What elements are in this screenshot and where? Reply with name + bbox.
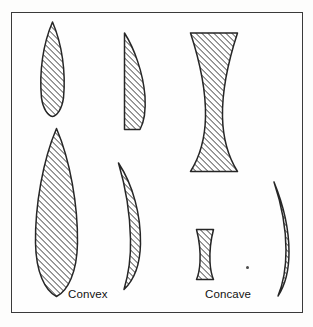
biconcave-lens-small (197, 230, 214, 280)
figure-root: Convex Concave (0, 0, 313, 327)
concave-label: Concave (205, 288, 251, 300)
lens-diagram-canvas (0, 0, 313, 327)
biconvex-lens-large (35, 129, 77, 297)
planoconvex-lens-small (125, 33, 146, 130)
meniscus-convex-crescent (119, 163, 141, 290)
scan-speck-artifact (246, 266, 249, 269)
concave-shape-group (191, 33, 290, 296)
meniscus-concave-crescent (274, 182, 289, 296)
convex-shape-group (35, 22, 145, 297)
convex-label: Convex (68, 288, 108, 300)
biconcave-lens-large (191, 33, 238, 172)
biconvex-lens-small (41, 22, 64, 117)
